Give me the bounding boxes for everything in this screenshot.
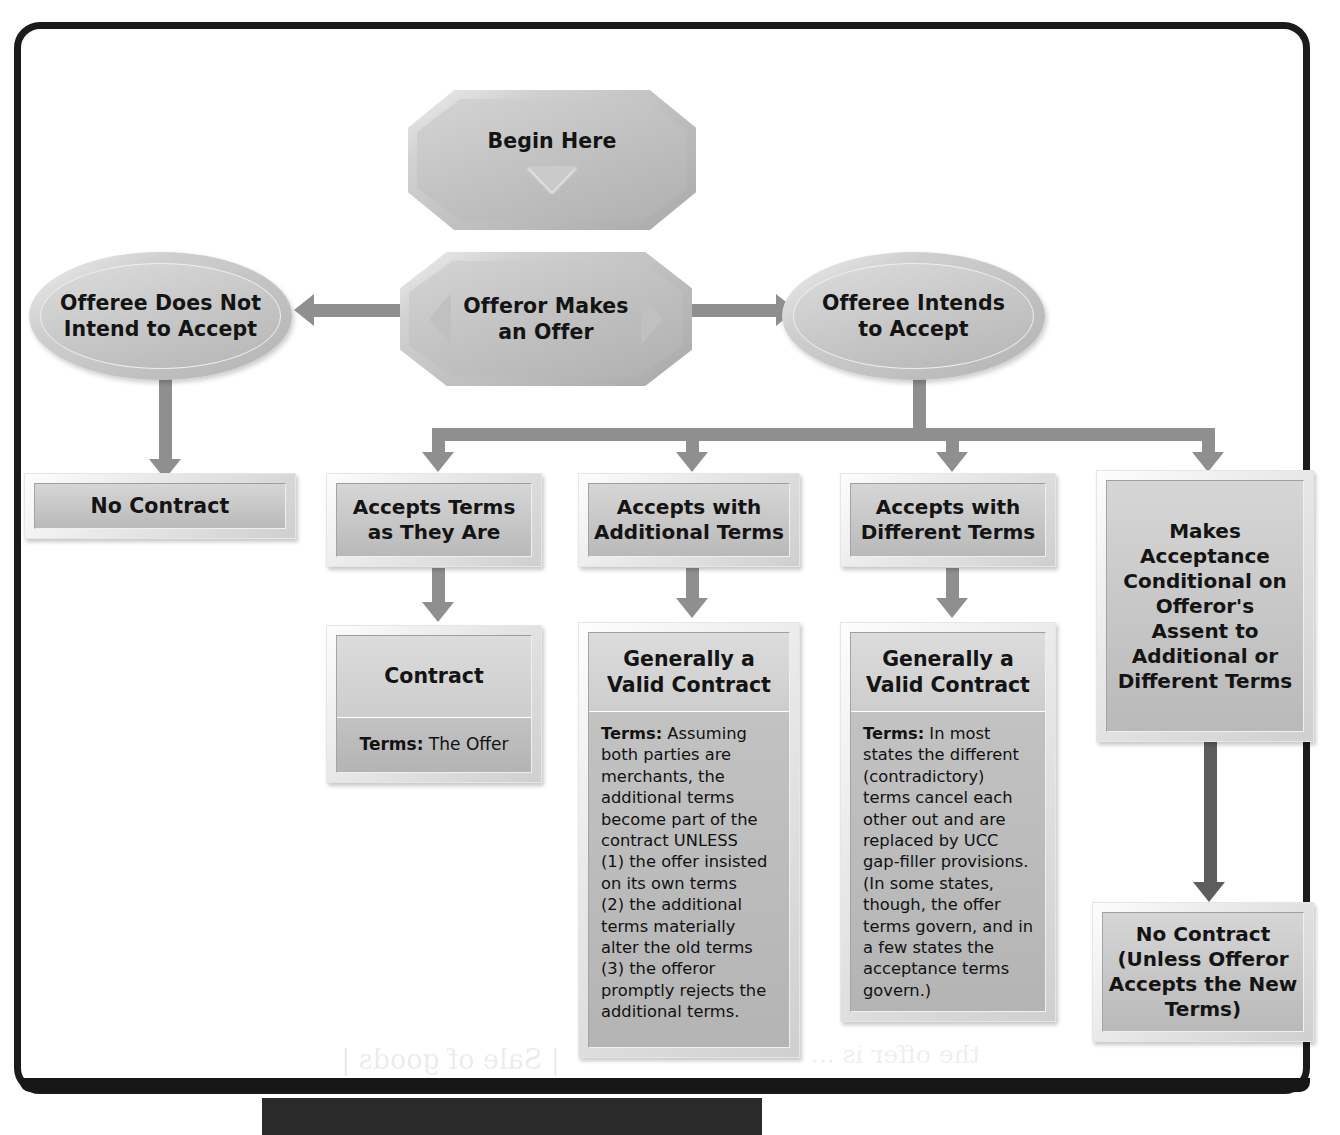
node-offeror-makes-offer-face: Offeror Makes an Offer	[409, 261, 683, 377]
triangle-left-icon	[429, 293, 451, 345]
node-conditional-label: Makes Acceptance Conditional on Offeror'…	[1118, 519, 1293, 694]
edge-conditional-to-no-contract-line	[1204, 742, 1217, 888]
node-no-contract-right[interactable]: No Contract (Unless Offeror Accepts the …	[1092, 902, 1314, 1042]
node-offeror-makes-offer[interactable]: Offeror Makes an Offer	[400, 252, 692, 386]
node-no-contract-right-line2: (Unless Offeror	[1117, 947, 1288, 972]
node-valid-additional-title: Generally aValid Contract	[589, 633, 789, 711]
node-valid-different-terms-body: In most states the different (contradict…	[863, 724, 1033, 1000]
node-no-contract-left-face: No Contract	[34, 483, 286, 529]
node-no-contract-right-face: No Contract (Unless Offeror Accepts the …	[1102, 912, 1304, 1032]
node-valid-different-title-line1: Generally a	[882, 647, 1014, 671]
node-valid-additional-terms-body: Assuming both parties are merchants, the…	[601, 724, 767, 1021]
edge-as-is-to-contract-arrowhead	[422, 602, 454, 622]
node-valid-additional-terms: Terms: Assuming both parties are merchan…	[589, 711, 789, 1047]
node-valid-contract-additional[interactable]: Generally aValid Contract Terms: Assumin…	[578, 622, 800, 1058]
edge-additional-to-valid-arrowhead	[676, 598, 708, 618]
page-spine-block	[262, 1098, 762, 1135]
node-no-contract-left[interactable]: No Contract	[24, 473, 296, 539]
edge-bus-arrow-additional	[676, 452, 708, 472]
edge-conditional-to-no-contract-arrowhead	[1193, 882, 1225, 902]
node-not-intend-line2: Intend to Accept	[64, 316, 258, 342]
node-accepts-terms-as-they-are[interactable]: Accepts Terms as They Are	[326, 473, 542, 567]
node-valid-different-terms-label: Terms:	[863, 724, 924, 743]
edge-distribution-bus	[432, 428, 1215, 441]
node-accepts-different-line1: Accepts with	[876, 495, 1021, 520]
node-valid-additional-title-line2: Valid Contract	[607, 673, 771, 697]
node-begin-here-face: Begin Here	[417, 99, 687, 221]
node-offeree-does-not-intend[interactable]: Offeree Does Not Intend to Accept	[29, 252, 292, 380]
node-conditional-face: Makes Acceptance Conditional on Offeror'…	[1106, 480, 1304, 732]
node-intends-line1: Offeree Intends	[822, 290, 1005, 316]
node-valid-different-terms: Terms: In most states the different (con…	[851, 711, 1045, 1011]
node-accepts-as-is-line2: as They Are	[368, 520, 501, 545]
node-accepts-different-face: Accepts with Different Terms	[850, 483, 1046, 557]
node-accepts-different-line2: Different Terms	[861, 520, 1036, 545]
node-begin-here[interactable]: Begin Here	[408, 90, 696, 230]
node-contract-title: Contract	[337, 636, 531, 717]
node-valid-additional-terms-label: Terms:	[601, 724, 662, 743]
node-no-contract-right-line4: Terms)	[1165, 997, 1241, 1022]
node-accepts-as-is-face: Accepts Terms as They Are	[336, 483, 532, 557]
node-offeree-does-not-intend-face: Offeree Does Not Intend to Accept	[40, 263, 281, 369]
edge-bus-arrow-different	[936, 452, 968, 472]
edge-offer-to-intends-line	[685, 304, 778, 317]
edge-offer-to-not-intend-line	[310, 304, 405, 317]
node-no-contract-right-line3: Accepts the New	[1109, 972, 1298, 997]
node-accepts-additional-line2: Additional Terms	[594, 520, 784, 545]
node-valid-additional-face: Generally aValid Contract Terms: Assumin…	[588, 632, 790, 1048]
node-intends-line2: to Accept	[858, 316, 968, 342]
edge-not-intend-to-no-contract-line	[159, 378, 172, 463]
node-contract-terms-label: Terms:	[360, 734, 424, 754]
node-offeree-intends-to-accept[interactable]: Offeree Intends to Accept	[782, 252, 1045, 380]
node-makes-acceptance-conditional[interactable]: Makes Acceptance Conditional on Offeror'…	[1096, 470, 1314, 742]
node-valid-different-title: Generally aValid Contract	[851, 633, 1045, 711]
node-no-contract-left-label: No Contract	[91, 493, 230, 519]
node-contract-terms-body: The Offer	[423, 734, 508, 754]
node-valid-different-face: Generally aValid Contract Terms: In most…	[850, 632, 1046, 1012]
node-no-contract-right-line1: No Contract	[1136, 922, 1270, 947]
node-valid-additional-title-line1: Generally a	[623, 647, 755, 671]
node-offeror-label-line1: Offeror Makes	[463, 293, 628, 319]
triangle-down-icon	[527, 166, 577, 192]
edge-different-to-valid-arrowhead	[936, 598, 968, 618]
node-contract-face: Contract Terms: The Offer	[336, 635, 532, 773]
triangle-right-icon	[641, 293, 663, 345]
node-accepts-additional-face: Accepts with Additional Terms	[588, 483, 790, 557]
edge-bus-arrow-conditional	[1192, 452, 1224, 472]
node-valid-different-title-line2: Valid Contract	[866, 673, 1030, 697]
node-contract-terms: Terms: The Offer	[337, 717, 531, 772]
node-accepts-additional-line1: Accepts with	[617, 495, 762, 520]
node-accepts-with-additional-terms[interactable]: Accepts with Additional Terms	[578, 473, 800, 567]
edge-intends-drop-line	[913, 378, 926, 430]
node-accepts-as-is-line1: Accepts Terms	[353, 495, 516, 520]
node-offeror-label-line2: an Offer	[498, 319, 594, 345]
ghost-bleed-text-lower: | Sale of goods |	[200, 1044, 560, 1070]
edge-offer-to-not-intend-arrowhead	[294, 294, 314, 326]
edge-bus-arrow-accepts-as-is	[422, 452, 454, 472]
node-valid-contract-different[interactable]: Generally aValid Contract Terms: In most…	[840, 622, 1056, 1022]
node-begin-here-label: Begin Here	[487, 128, 616, 154]
node-accepts-with-different-terms[interactable]: Accepts with Different Terms	[840, 473, 1056, 567]
node-not-intend-line1: Offeree Does Not	[60, 290, 261, 316]
node-contract[interactable]: Contract Terms: The Offer	[326, 625, 542, 783]
node-offeree-intends-face: Offeree Intends to Accept	[793, 263, 1034, 369]
page-bottom-shadow	[20, 1078, 1310, 1092]
